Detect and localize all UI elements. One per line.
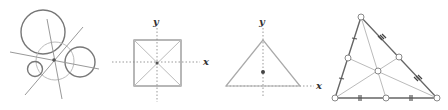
y-axis-label: y (152, 16, 160, 27)
median-right (348, 58, 437, 98)
circles-diagram (0, 0, 112, 110)
center-point (52, 58, 56, 62)
center-point (156, 62, 159, 65)
circle-large-top (21, 10, 65, 54)
median-top (361, 17, 386, 98)
circle-small-left (28, 62, 43, 77)
vertex-top (358, 14, 364, 20)
triangle-medians-diagram (320, 0, 448, 110)
vertex-bottom-right (434, 95, 440, 101)
midpoint-left (345, 55, 351, 61)
square-diagram: y x (112, 0, 224, 110)
circle-right (65, 47, 95, 77)
midpoint-bottom (383, 95, 389, 101)
x-axis-label: x (202, 56, 210, 67)
midpoint-right (396, 54, 402, 60)
vertex-bottom-left (332, 95, 338, 101)
diagram-row: y x y x (0, 0, 448, 110)
tick-left-2 (339, 78, 344, 79)
tick-left-1 (352, 38, 357, 39)
centroid-point (261, 70, 265, 74)
median-left (335, 57, 399, 98)
y-axis-label: y (258, 16, 266, 27)
centroid (375, 68, 381, 74)
